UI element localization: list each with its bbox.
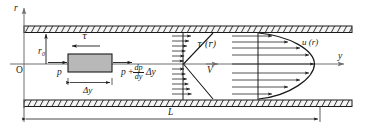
fluid-element [68,54,112,72]
shear-stress-label-tau: τ [82,32,87,41]
pressure-label-right: p +dpdy Δy [121,64,156,82]
axis-label-r: r [14,4,18,14]
axis-label-y: y [338,52,342,62]
length-label-L: L [168,108,173,118]
diagram-canvas [0,0,367,132]
figure-root: r r0 O τ p Δy p +dpdy Δy τ (r) V u (r) y… [0,0,367,132]
origin-label-O: O [16,66,23,76]
shear-profile-arrows [172,36,192,94]
top-wall [24,26,352,33]
element-width-label: Δy [83,86,92,95]
shear-profile-label: τ (r) [197,40,216,49]
velocity-profile-label: u (r) [302,38,318,47]
bottom-wall [24,100,352,107]
element-width-dimension [68,78,112,85]
pressure-label-left: p [57,68,62,78]
radius-label-r0: r0 [38,47,45,58]
mean-velocity-label: V [207,66,213,76]
